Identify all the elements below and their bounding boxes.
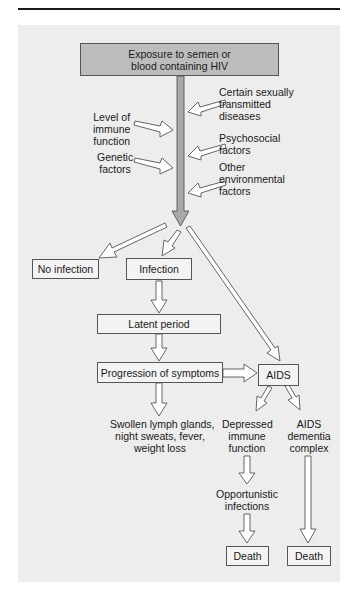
- factor-text: Genetic: [97, 151, 133, 163]
- exposure-line-1: Exposure to semen or: [128, 48, 231, 60]
- arrow-dementia-death: [300, 456, 316, 543]
- factor-text: Other: [219, 161, 285, 173]
- factor-text: Level of: [93, 111, 130, 123]
- factor-environmental: Other environmental factors: [219, 161, 285, 197]
- symptoms-text: Swollen lymph glands, night sweats, feve…: [110, 418, 210, 454]
- opportunistic-text: Opportunistic infections: [212, 488, 282, 512]
- aids-box: AIDS: [258, 364, 299, 386]
- progression-box: Progression of symptoms: [97, 362, 223, 383]
- factor-text: function: [93, 135, 130, 147]
- factor-text: immune: [93, 123, 130, 135]
- factor-text: factors: [219, 144, 280, 156]
- depressed-line: function: [222, 442, 272, 454]
- arrow-to-no-infection: [99, 223, 167, 258]
- arrow-latent-progression: [151, 334, 167, 361]
- arrow-infection-latent: [151, 281, 167, 313]
- factor-text: transmitted: [219, 98, 294, 110]
- death-box-right: Death: [287, 546, 331, 566]
- death-box-left: Death: [226, 546, 269, 566]
- infection-box: Infection: [126, 258, 192, 280]
- factor-genetic: Genetic factors: [97, 151, 133, 175]
- arrows-layer: [0, 0, 354, 607]
- arrow-aids-depressed: [256, 386, 272, 411]
- factor-text: diseases: [219, 110, 294, 122]
- main-arrow: [172, 76, 189, 226]
- arrow-immune-function: [134, 121, 173, 137]
- depressed-line: immune: [222, 430, 272, 442]
- arrow-opportunistic-death: [239, 514, 255, 543]
- aids-dementia-text: AIDS dementia complex: [284, 418, 334, 454]
- factor-text: factors: [97, 163, 133, 175]
- arrow-to-aids: [186, 226, 280, 361]
- dementia-line: dementia: [284, 430, 334, 442]
- symptoms-line: night sweats, fever,: [110, 430, 210, 442]
- factor-std: Certain sexually transmitted diseases: [219, 86, 294, 122]
- symptoms-line: Swollen lymph glands,: [110, 418, 210, 430]
- depressed-line: Depressed: [222, 418, 272, 430]
- dementia-line: complex: [284, 442, 334, 454]
- factor-immune-function: Level of immune function: [93, 111, 130, 147]
- exposure-line-2: blood containing HIV: [131, 60, 228, 72]
- arrow-progression-symptoms: [151, 383, 167, 416]
- arrow-genetic: [134, 158, 173, 174]
- no-infection-box: No infection: [32, 259, 99, 279]
- arrow-aids-dementia: [285, 385, 300, 410]
- factor-text: factors: [219, 185, 285, 197]
- arrow-depressed-opportunistic: [239, 456, 255, 484]
- symptoms-line: weight loss: [110, 442, 210, 454]
- factor-text: Psychosocial: [219, 132, 280, 144]
- latent-period-box: Latent period: [97, 314, 221, 334]
- depressed-immune-text: Depressed immune function: [222, 418, 272, 454]
- factor-text: environmental: [219, 173, 285, 185]
- arrow-to-infection: [162, 230, 181, 256]
- opportunistic-line: Opportunistic: [212, 488, 282, 500]
- factor-psychosocial: Psychosocial factors: [219, 132, 280, 156]
- opportunistic-line: infections: [212, 500, 282, 512]
- arrow-progression-aids: [223, 364, 257, 382]
- dementia-line: AIDS: [284, 418, 334, 430]
- factor-text: Certain sexually: [219, 86, 294, 98]
- exposure-box: Exposure to semen or blood containing HI…: [80, 43, 279, 76]
